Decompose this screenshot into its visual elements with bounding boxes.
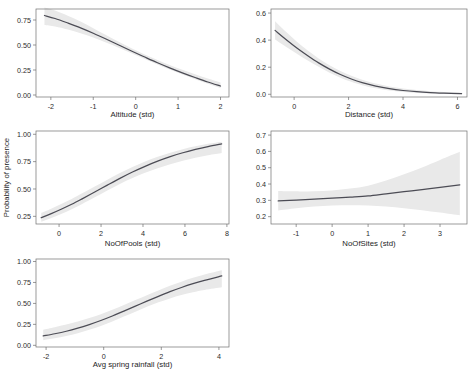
confidence-band: [275, 21, 461, 94]
x-tick-label: -1: [90, 102, 96, 111]
multi-panel-figure: 0.000.250.500.75-2-1012Altitude (std) 0.…: [0, 0, 476, 371]
x-axis-title: Altitude (std): [111, 110, 155, 119]
x-tick-label: 0: [330, 229, 334, 238]
y-tick-label: 0.00: [17, 91, 31, 100]
y-tick-label: 0.0: [256, 90, 266, 99]
y-tick-label: 0.50: [17, 185, 31, 194]
x-tick-label: 0: [57, 229, 61, 238]
panel-altitude: 0.000.250.500.75-2-1012Altitude (std): [0, 0, 238, 120]
panel-distance-plot: 0.00.20.40.60246Distance (std): [238, 0, 476, 120]
x-tick-label: 6: [455, 102, 459, 111]
panel-altitude-plot: 0.000.250.500.75-2-1012Altitude (std): [0, 0, 238, 120]
x-tick-label: 1: [176, 102, 180, 111]
y-tick-label: 0.2: [256, 63, 266, 72]
x-axis-title: Avg spring rainfall (std): [93, 360, 173, 369]
y-tick-label: 0.75: [17, 157, 31, 166]
y-tick-label: 0.75: [17, 16, 31, 25]
y-tick-label: 0.4: [256, 36, 266, 45]
panel-distance: 0.00.20.40.60246Distance (std): [238, 0, 476, 120]
panel-rainfall: 0.000.250.500.751.00-2024Avg spring rain…: [0, 250, 238, 371]
x-tick-label: 1: [366, 229, 370, 238]
x-tick-label: 2: [402, 229, 406, 238]
panel-nofsites-plot: 0.20.30.40.50.60.7-10123NoOfSites (std): [238, 122, 476, 250]
panel-rainfall-plot: 0.000.250.500.751.00-2024Avg spring rain…: [0, 250, 238, 371]
x-axis-title: Distance (std): [345, 110, 393, 119]
y-tick-label: 0.25: [17, 320, 31, 329]
panel-nofpools: 0.250.500.751.0002468NoOfPools (std)Prob…: [0, 122, 238, 250]
y-tick-label: 1.00: [17, 130, 31, 139]
y-tick-label: 0.3: [256, 196, 266, 205]
y-tick-label: 0.2: [256, 212, 266, 221]
x-tick-label: 4: [401, 102, 405, 111]
panel-nofpools-plot: 0.250.500.751.0002468NoOfPools (std)Prob…: [0, 122, 238, 250]
y-tick-label: 0.50: [17, 41, 31, 50]
x-tick-label: 4: [217, 352, 221, 361]
panel-nofsites: 0.20.30.40.50.60.7-10123NoOfSites (std): [238, 122, 476, 250]
y-tick-label: 0.5: [256, 163, 266, 172]
x-tick-label: 3: [438, 229, 442, 238]
x-axis-title: NoOfSites (std): [342, 239, 396, 248]
y-tick-label: 0.4: [256, 180, 266, 189]
y-tick-label: 0.75: [17, 278, 31, 287]
x-axis-title: NoOfPools (std): [105, 239, 161, 248]
confidence-band: [41, 142, 221, 222]
y-tick-label: 0.7: [256, 131, 266, 140]
x-tick-label: 2: [219, 102, 223, 111]
fitted-line: [275, 30, 461, 93]
x-tick-label: 0: [292, 102, 296, 111]
x-tick-label: 4: [141, 229, 145, 238]
confidence-band: [44, 8, 220, 89]
y-tick-label: 0.25: [17, 212, 31, 221]
y-tick-label: 0.00: [17, 341, 31, 350]
x-tick-label: -1: [293, 229, 299, 238]
x-tick-label: -2: [48, 102, 54, 111]
x-tick-label: 6: [183, 229, 187, 238]
y-tick-label: 1.00: [17, 257, 31, 266]
x-tick-label: -2: [43, 352, 49, 361]
y-tick-label: 0.6: [256, 9, 266, 18]
y-tick-label: 0.25: [17, 66, 31, 75]
y-tick-label: 0.50: [17, 299, 31, 308]
x-tick-label: 8: [225, 229, 229, 238]
y-tick-label: 0.6: [256, 147, 266, 156]
x-tick-label: 2: [99, 229, 103, 238]
y-axis-title: Probability of presence: [2, 138, 11, 217]
confidence-band: [278, 152, 460, 216]
